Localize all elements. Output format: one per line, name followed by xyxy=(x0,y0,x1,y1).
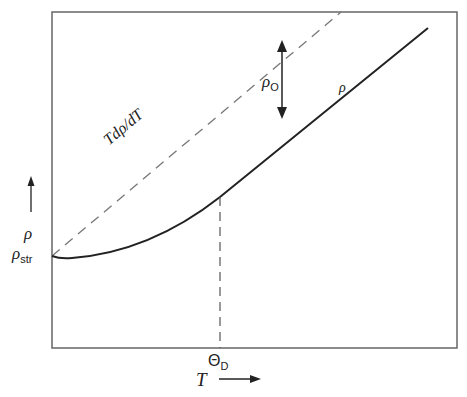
x-axis-label: T xyxy=(196,369,207,391)
arrow-up-head-icon xyxy=(277,40,287,52)
rho-curve-label: ρ xyxy=(339,80,346,96)
plot-frame xyxy=(52,12,457,348)
rho0-main: ρ xyxy=(262,72,270,91)
theta-d-sub: D xyxy=(220,360,228,372)
rho-str-sub: str xyxy=(20,253,32,265)
rho0-sub: O xyxy=(270,81,279,93)
theta-d-label: ΘD xyxy=(208,352,228,372)
rho-str-label: ρstr xyxy=(12,244,32,265)
y-axis-label: ρ xyxy=(24,224,32,244)
arrow-down-head-icon xyxy=(277,107,287,119)
rho-str-main: ρ xyxy=(12,244,20,263)
plot-canvas xyxy=(0,0,467,397)
rho0-label: ρO xyxy=(262,72,279,93)
right-arrow-icon xyxy=(250,375,261,383)
theta-d-main: Θ xyxy=(208,352,220,369)
up-arrow-icon xyxy=(28,176,35,186)
